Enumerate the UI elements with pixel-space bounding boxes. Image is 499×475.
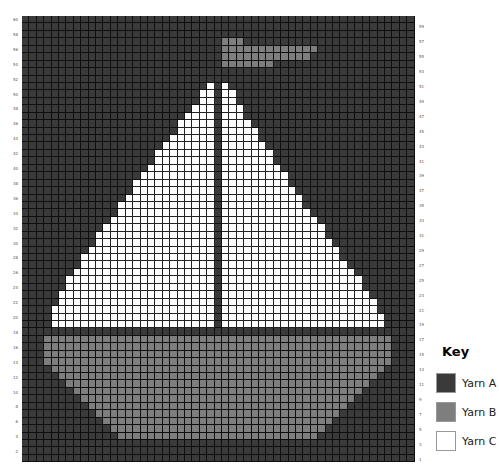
chart-cell — [111, 455, 118, 462]
chart-cell — [155, 276, 162, 283]
chart-cell — [340, 403, 347, 410]
chart-cell — [385, 440, 392, 447]
chart-cell — [378, 403, 385, 410]
chart-cell — [111, 336, 118, 343]
chart-cell — [170, 410, 177, 417]
chart-cell — [296, 440, 303, 447]
chart-cell — [363, 284, 370, 291]
chart-cell — [170, 16, 177, 23]
chart-cell — [52, 157, 59, 164]
chart-cell — [229, 202, 236, 209]
chart-cell — [244, 425, 251, 432]
chart-cell — [266, 209, 273, 216]
chart-cell — [222, 135, 229, 142]
chart-cell — [266, 68, 273, 75]
chart-cell — [281, 321, 288, 328]
chart-cell — [370, 105, 377, 112]
chart-cell — [200, 150, 207, 157]
chart-cell — [259, 418, 266, 425]
chart-cell — [348, 90, 355, 97]
chart-cell — [318, 380, 325, 387]
chart-cell — [163, 217, 170, 224]
chart-cell — [74, 217, 81, 224]
chart-cell — [289, 142, 296, 149]
chart-cell — [311, 403, 318, 410]
chart-cell — [81, 157, 88, 164]
chart-cell — [407, 209, 414, 216]
chart-cell — [141, 239, 148, 246]
chart-cell — [355, 291, 362, 298]
chart-cell — [37, 254, 44, 261]
chart-cell — [96, 321, 103, 328]
chart-cell — [222, 232, 229, 239]
chart-cell — [148, 284, 155, 291]
chart-cell — [378, 172, 385, 179]
chart-cell — [222, 321, 229, 328]
chart-cell — [303, 299, 310, 306]
chart-cell — [237, 455, 244, 462]
chart-cell — [133, 157, 140, 164]
chart-cell — [281, 440, 288, 447]
chart-cell — [237, 31, 244, 38]
row-label: 6 — [8, 420, 18, 424]
chart-cell — [385, 314, 392, 321]
chart-cell — [155, 83, 162, 90]
chart-cell — [59, 202, 66, 209]
chart-cell — [81, 31, 88, 38]
chart-cell — [185, 180, 192, 187]
chart-cell — [407, 142, 414, 149]
chart-cell — [59, 276, 66, 283]
chart-cell — [378, 314, 385, 321]
chart-cell — [326, 269, 333, 276]
chart-cell — [103, 113, 110, 120]
chart-cell — [96, 239, 103, 246]
chart-cell — [103, 16, 110, 23]
chart-cell — [103, 209, 110, 216]
chart-cell — [74, 425, 81, 432]
chart-cell — [89, 180, 96, 187]
chart-cell — [96, 165, 103, 172]
chart-cell — [22, 202, 29, 209]
chart-cell — [303, 120, 310, 127]
chart-cell — [133, 128, 140, 135]
chart-cell — [333, 261, 340, 268]
chart-cell — [29, 16, 36, 23]
chart-cell — [126, 76, 133, 83]
chart-cell — [192, 373, 199, 380]
chart-cell — [66, 98, 73, 105]
chart-cell — [237, 269, 244, 276]
chart-cell — [59, 150, 66, 157]
chart-cell — [326, 373, 333, 380]
chart-cell — [266, 336, 273, 343]
chart-cell — [155, 217, 162, 224]
chart-cell — [22, 351, 29, 358]
chart-cell — [111, 261, 118, 268]
chart-cell — [392, 38, 399, 45]
chart-cell — [407, 440, 414, 447]
chart-cell — [133, 366, 140, 373]
chart-cell — [370, 61, 377, 68]
chart-cell — [111, 16, 118, 23]
chart-cell — [237, 276, 244, 283]
chart-cell — [407, 247, 414, 254]
chart-cell — [252, 418, 259, 425]
chart-cell — [148, 239, 155, 246]
chart-cell — [400, 76, 407, 83]
chart-cell — [266, 98, 273, 105]
chart-cell — [348, 83, 355, 90]
chart-cell — [259, 172, 266, 179]
chart-cell — [44, 455, 51, 462]
chart-cell — [237, 224, 244, 231]
chart-cell — [200, 105, 207, 112]
chart-cell — [340, 358, 347, 365]
chart-cell — [266, 261, 273, 268]
chart-cell — [326, 403, 333, 410]
chart-cell — [303, 380, 310, 387]
chart-cell — [385, 46, 392, 53]
chart-cell — [111, 135, 118, 142]
chart-cell — [281, 172, 288, 179]
chart-cell — [407, 380, 414, 387]
chart-cell — [170, 187, 177, 194]
chart-cell — [44, 209, 51, 216]
chart-cell — [252, 53, 259, 60]
